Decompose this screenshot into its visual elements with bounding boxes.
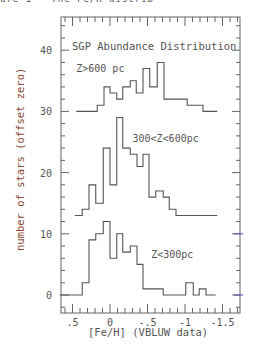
x-tick-label: .5 <box>66 317 78 328</box>
y-tick-label: 30 <box>40 106 52 117</box>
histogram-chart: SGP Abundance Distribution [Fe/H] (VBLUW… <box>0 0 254 360</box>
y-axis-label: number of stars (offset zero) <box>14 68 26 251</box>
axis-ticks <box>61 17 243 313</box>
y-tick-label: 40 <box>40 45 52 56</box>
series-label: Z>600 pc <box>76 63 124 74</box>
x-tick-label: -1 <box>179 317 191 328</box>
x-tick-label: -1.5 <box>210 317 234 328</box>
chart-title: SGP Abundance Distribution <box>72 40 236 52</box>
plot-border <box>61 17 240 313</box>
y-tick-label: 0 <box>46 290 52 301</box>
y-tick-label: 10 <box>40 229 52 240</box>
y-tick-labels: 010203040 <box>40 45 52 301</box>
y-tick-label: 20 <box>40 168 52 179</box>
x-tick-label: -.5 <box>138 317 156 328</box>
series-label: 300<Z<600pc <box>133 133 199 144</box>
plot-frame <box>61 17 240 313</box>
x-tick-label: 0 <box>107 317 113 328</box>
histogram-series <box>60 62 218 295</box>
series-label: Z<300pc <box>151 249 193 260</box>
